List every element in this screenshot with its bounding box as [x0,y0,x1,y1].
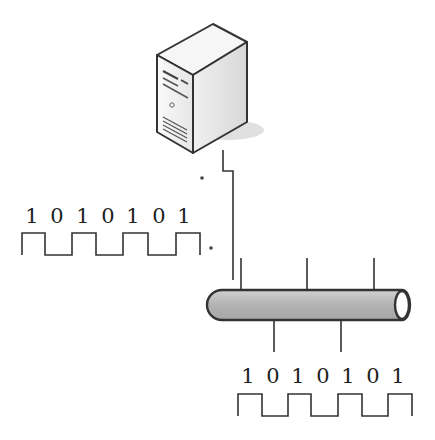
signal-wave-left [22,233,200,255]
bit-label: 1 [73,204,93,228]
bit-label: 1 [288,364,308,388]
bit-label: 0 [47,204,67,228]
signal-wave-right [238,394,412,416]
bit-label: 0 [313,364,333,388]
bus-taps-bottom [274,320,341,352]
server-tower-icon [157,24,264,153]
bit-label: 0 [263,364,283,388]
bit-label: 0 [98,204,118,228]
bit-labels-left: 1 0 1 0 1 0 1 [0,204,220,230]
bit-label: 1 [238,364,258,388]
bit-label: 1 [388,364,408,388]
bit-label: 1 [123,204,143,228]
bit-label: 1 [22,204,42,228]
bus-taps-top [241,258,374,291]
server-connection-line [223,150,233,280]
dot-marker [209,246,213,250]
bit-label: 0 [363,364,383,388]
bit-label: 1 [338,364,358,388]
bit-label: 1 [174,204,194,228]
bit-label: 0 [149,204,169,228]
dot-marker [200,176,204,180]
cable-bus-icon [207,290,410,320]
bit-labels-right: 1 0 1 0 1 0 1 [0,364,435,390]
